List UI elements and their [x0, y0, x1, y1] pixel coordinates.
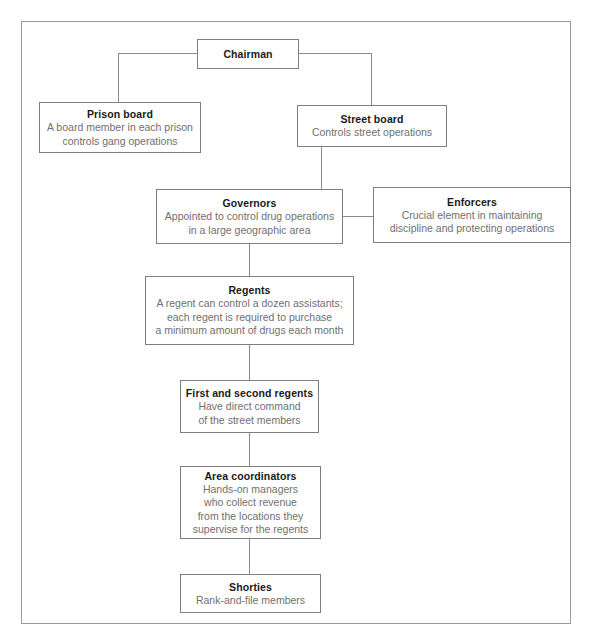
node-shorties[interactable]: Shorties Rank-and-file members: [180, 574, 321, 613]
connector-first-second-regents-to-area-coordinators: [249, 433, 250, 466]
node-enforcers-title: Enforcers: [447, 195, 497, 209]
node-street-board-title: Street board: [340, 112, 403, 126]
node-governors[interactable]: Governors Appointed to control drug oper…: [156, 189, 343, 244]
node-street-board-description: Controls street operations: [312, 126, 432, 140]
node-prison-board-title: Prison board: [87, 107, 153, 121]
node-enforcers[interactable]: Enforcers Crucial element in maintaining…: [373, 187, 571, 243]
node-area-coordinators[interactable]: Area coordinators Hands-on managers who …: [180, 466, 321, 539]
connector-area-coordinators-to-shorties: [249, 539, 250, 574]
node-regents-title: Regents: [228, 283, 270, 297]
connector-street-board-to-governors: [321, 147, 322, 189]
node-chairman[interactable]: Chairman: [197, 39, 299, 69]
connector-chairman-to-street-board-horizontal: [299, 53, 372, 54]
node-enforcers-description: Crucial element in maintaining disciplin…: [390, 209, 555, 236]
chart-frame: Chairman Prison board A board member in …: [21, 21, 571, 624]
node-street-board[interactable]: Street board Controls street operations: [297, 105, 447, 147]
connector-governors-to-regents: [249, 244, 250, 276]
node-area-coordinators-description: Hands-on managers who collect revenue fr…: [193, 483, 309, 537]
org-chart-page: Chairman Prison board A board member in …: [0, 0, 592, 643]
node-first-and-second-regents-title: First and second regents: [186, 386, 313, 400]
node-prison-board[interactable]: Prison board A board member in each pris…: [39, 102, 201, 153]
node-governors-title: Governors: [223, 196, 277, 210]
node-regents[interactable]: Regents A regent can control a dozen ass…: [145, 276, 354, 345]
node-governors-description: Appointed to control drug operations in …: [165, 210, 334, 237]
node-area-coordinators-title: Area coordinators: [204, 469, 296, 483]
connector-chairman-to-prison-board-vertical: [118, 53, 119, 102]
node-regents-description: A regent can control a dozen assistants;…: [156, 297, 344, 338]
node-prison-board-description: A board member in each prison controls g…: [47, 121, 193, 148]
connector-chairman-to-street-board-vertical: [371, 53, 372, 105]
connector-regents-to-first-second-regents: [249, 345, 250, 380]
node-first-and-second-regents[interactable]: First and second regents Have direct com…: [180, 380, 319, 433]
node-first-and-second-regents-description: Have direct command of the street member…: [198, 400, 300, 427]
node-shorties-description: Rank-and-file members: [196, 594, 305, 608]
connector-governors-to-enforcers: [343, 216, 373, 217]
node-chairman-title: Chairman: [223, 48, 272, 61]
node-shorties-title: Shorties: [229, 580, 272, 594]
connector-chairman-to-prison-board-horizontal: [118, 53, 197, 54]
